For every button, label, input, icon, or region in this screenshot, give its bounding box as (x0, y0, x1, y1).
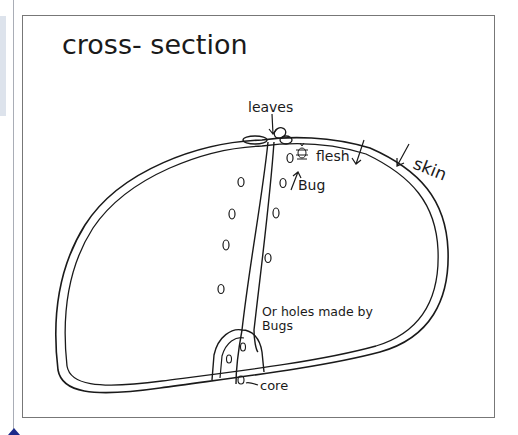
apple-cross-section-drawing: cross- section leaves flesh Bug skin (0, 0, 518, 435)
seed-icon (227, 355, 232, 363)
label-holes-line2: Bugs (262, 318, 293, 333)
core-arrow-icon (246, 383, 258, 385)
label-skin: skin (411, 153, 450, 184)
bug-icon (296, 143, 308, 159)
label-bug: Bug (298, 177, 325, 193)
bug-holes (218, 154, 293, 294)
apple-outer-skin (56, 138, 448, 393)
diagram-title: cross- section (62, 29, 248, 60)
label-flesh: flesh (316, 148, 350, 164)
apple-inner-skin (65, 144, 438, 386)
label-leaves: leaves (248, 99, 293, 115)
label-holes-line1: Or holes made by (262, 304, 374, 319)
seed-icon (241, 343, 246, 351)
skin-arrow-icon (397, 144, 409, 166)
leaves-arrow-icon (269, 114, 277, 134)
label-core: core (260, 378, 288, 393)
